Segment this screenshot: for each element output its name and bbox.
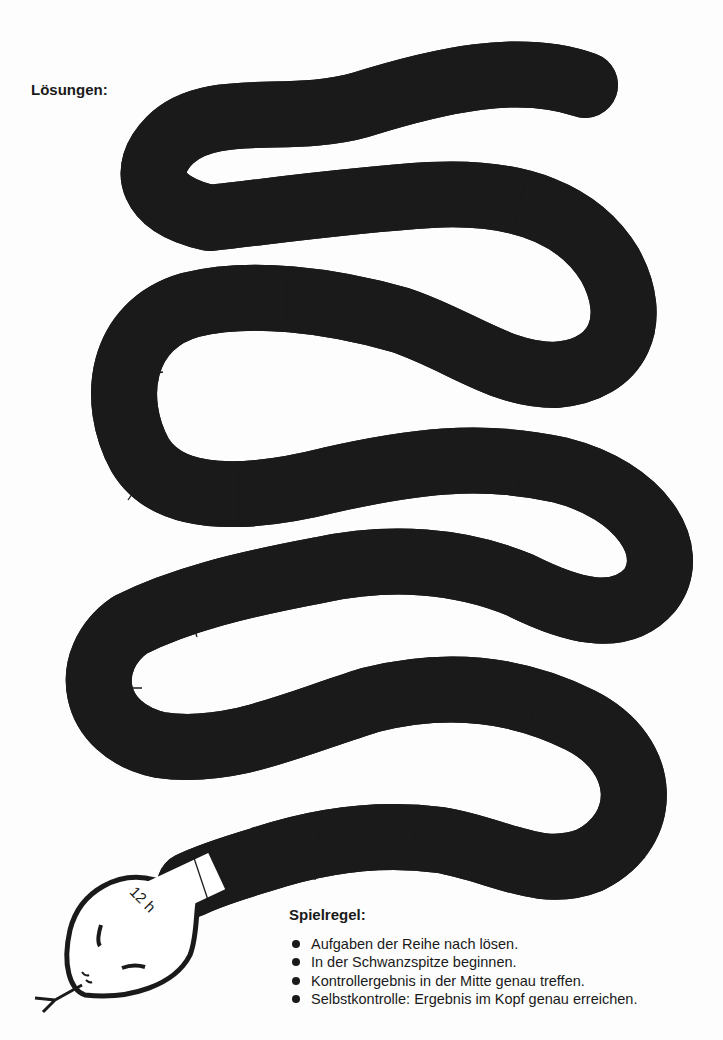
cell-op: + 26 min = [382, 563, 454, 582]
bullet-icon [292, 940, 300, 948]
eye-icon [98, 925, 101, 946]
rule-item: Aufgaben der Reihe nach lösen. [289, 935, 637, 953]
cell-op: + 59 min = [624, 762, 643, 834]
bullet-icon [292, 958, 300, 966]
rule-item: Selbstkontrolle: Ergebnis im Kopf genau … [289, 990, 637, 1008]
game-rules: Spielregel: Aufgaben der Reihe nach löse… [289, 906, 637, 1008]
cell-result: 3 h [240, 207, 261, 223]
bullet-icon [292, 995, 300, 1003]
rule-item: In der Schwanzspitze beginnen. [289, 953, 637, 971]
cell-op: + 38 min = [499, 350, 570, 367]
bullet-icon [292, 977, 300, 985]
cell-op: + 21 min = [449, 688, 521, 707]
rules-title: Spielregel: [289, 906, 637, 923]
cell-result: 11 h 48 min [327, 843, 406, 862]
snake-board: 2 h 15 min + 45 min = 3 h + 35 min = 3 h… [0, 0, 723, 1040]
rules-list: Aufgaben der Reihe nach lösen. In der Sc… [289, 935, 637, 1008]
tongue-icon [35, 985, 82, 1012]
cell-result: 4 h 50 min [209, 300, 280, 316]
cell-result: 5 h 40 min [135, 370, 154, 441]
rule-item: Kontrollergebnis in der Mitte genau tref… [289, 972, 637, 990]
snake-head [35, 853, 225, 1012]
cell-result: 6 h 55 min [435, 455, 506, 471]
worksheet-page: Lösungen: [0, 0, 723, 1040]
cell-result: 4 h [613, 305, 629, 326]
cell-result: 8 h 34 min [288, 572, 359, 588]
